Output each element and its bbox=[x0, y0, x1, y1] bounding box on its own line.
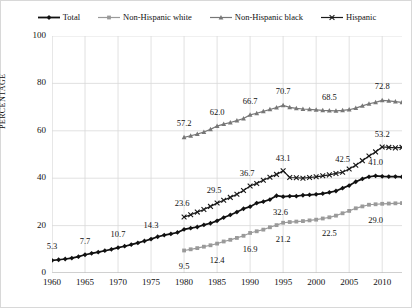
legend-item-total[interactable]: Total bbox=[38, 12, 80, 22]
y-tick-label: 40 bbox=[6, 172, 46, 182]
legend-label: Non-Hispanic black bbox=[235, 12, 303, 22]
series-hispanic bbox=[182, 145, 402, 220]
data-label: 57.2 bbox=[177, 118, 192, 128]
series-non-hispanic-black bbox=[182, 98, 402, 139]
data-label: 5.3 bbox=[47, 241, 58, 251]
legend-item-non-hispanic-white[interactable]: Non-Hispanic white bbox=[98, 12, 192, 22]
data-label: 62.0 bbox=[210, 107, 225, 117]
data-label: 12.4 bbox=[210, 255, 225, 265]
data-label: 72.8 bbox=[375, 81, 390, 91]
legend-label: Non-Hispanic white bbox=[123, 12, 192, 22]
data-label: 7.7 bbox=[80, 236, 91, 246]
data-label: 70.7 bbox=[276, 86, 291, 96]
data-label: 9.5 bbox=[179, 261, 190, 271]
data-label: 41.0 bbox=[368, 157, 383, 167]
data-label: 21.2 bbox=[276, 234, 291, 244]
y-tick-label: 20 bbox=[6, 220, 46, 230]
legend-label: Total bbox=[63, 12, 80, 22]
y-tick-label: 80 bbox=[6, 77, 46, 87]
data-label: 43.1 bbox=[276, 153, 291, 163]
data-label: 53.2 bbox=[375, 129, 390, 139]
data-label: 32.6 bbox=[273, 207, 288, 217]
data-label: 42.5 bbox=[335, 154, 350, 164]
chart-container: TotalNon-Hispanic whiteNon-Hispanic blac… bbox=[0, 0, 412, 308]
data-label: 68.5 bbox=[322, 92, 337, 102]
legend-marker-icon bbox=[210, 13, 232, 22]
y-tick-label: 100 bbox=[6, 30, 46, 40]
data-label: 22.5 bbox=[322, 228, 337, 238]
chart-legend: TotalNon-Hispanic whiteNon-Hispanic blac… bbox=[1, 7, 412, 27]
y-tick-label: 0 bbox=[6, 267, 46, 277]
data-label: 36.7 bbox=[240, 168, 255, 178]
legend-item-non-hispanic-black[interactable]: Non-Hispanic black bbox=[210, 12, 303, 22]
data-label: 10.7 bbox=[111, 229, 126, 239]
legend-marker-icon bbox=[321, 13, 343, 22]
x-tick-label: 2010 bbox=[362, 277, 402, 287]
data-label: 14.3 bbox=[144, 220, 159, 230]
data-label: 66.7 bbox=[243, 96, 258, 106]
data-label: 29.5 bbox=[207, 185, 222, 195]
data-label: 29.0 bbox=[368, 215, 383, 225]
legend-marker-icon bbox=[98, 13, 120, 22]
series-non-hispanic-white bbox=[182, 201, 402, 252]
legend-marker-icon bbox=[38, 13, 60, 22]
legend-label: Hispanic bbox=[346, 12, 376, 22]
data-label: 23.6 bbox=[175, 198, 190, 208]
legend-item-hispanic[interactable]: Hispanic bbox=[321, 12, 376, 22]
data-label: 16.9 bbox=[243, 244, 258, 254]
y-tick-label: 60 bbox=[6, 125, 46, 135]
